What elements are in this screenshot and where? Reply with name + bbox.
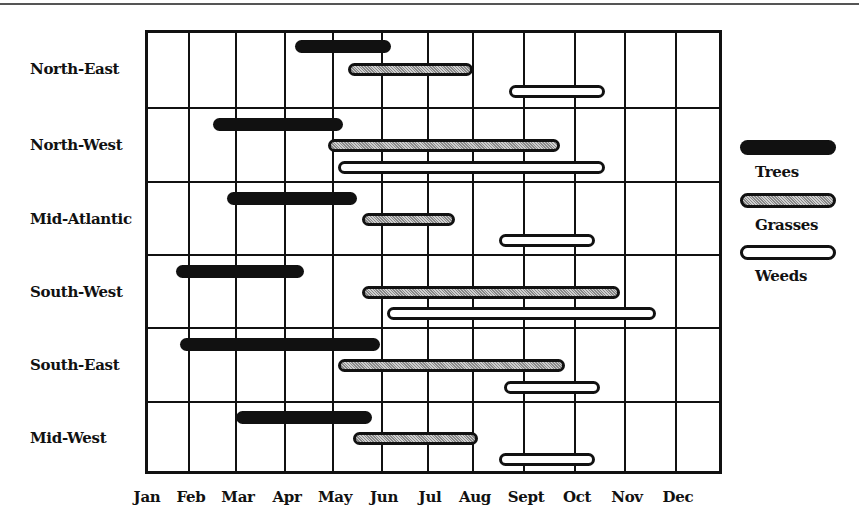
month-label: Aug [452,488,498,506]
month-label: Mar [215,488,261,506]
bar-grasses [353,432,479,445]
month-label: Jan [124,488,170,506]
month-label: Nov [604,488,650,506]
bar-weeds [499,234,596,247]
grid-hline [148,107,719,109]
month-label: Apr [264,488,310,506]
bar-grasses [362,286,620,299]
grid-vline [472,33,474,471]
legend-grasses-swatch [740,193,836,208]
grid-hline [148,254,719,256]
region-label: Mid-Atlantic [0,210,140,228]
month-label: May [312,488,358,506]
legend-trees-swatch [740,140,836,155]
grid-vline [523,33,525,471]
bar-grasses [338,359,565,372]
grid-vline [675,33,677,471]
month-label: Jul [407,488,453,506]
bar-weeds [499,453,596,466]
month-label: Dec [655,488,701,506]
grid-vline [427,33,429,471]
bar-trees [213,118,343,131]
bar-grasses [328,139,560,152]
region-label: South-East [0,356,140,374]
month-label: Feb [168,488,214,506]
grid-vline [235,33,237,471]
region-label: North-East [0,60,140,78]
grid-vline [188,33,190,471]
legend-weeds-label: Weeds [755,267,807,285]
page-top-rule [0,3,859,5]
bar-grasses [348,63,473,76]
grid-vline [284,33,286,471]
legend-weeds-swatch [740,245,836,260]
bar-trees [176,265,304,278]
region-label: North-West [0,136,140,154]
region-label: South-West [0,283,140,301]
month-label: Jun [361,488,407,506]
bar-trees [180,338,379,351]
legend-grasses-label: Grasses [755,216,818,234]
bar-trees [236,411,372,424]
region-label: Mid-West [0,429,140,447]
month-label: Oct [554,488,600,506]
grid-vline [381,33,383,471]
month-label: Sept [503,488,549,506]
bar-grasses [362,213,455,226]
legend-trees-label: Trees [755,163,799,181]
grid-hline [148,181,719,183]
grid-vline [332,33,334,471]
grid-hline [148,401,719,403]
bar-trees [227,192,358,205]
bar-trees [295,40,392,53]
bar-weeds [338,161,605,174]
bar-weeds [387,307,656,320]
bar-weeds [504,381,600,394]
grid-hline [148,327,719,329]
bar-weeds [509,85,605,98]
grid-vline [574,33,576,471]
plot-area [145,30,722,474]
grid-vline [624,33,626,471]
